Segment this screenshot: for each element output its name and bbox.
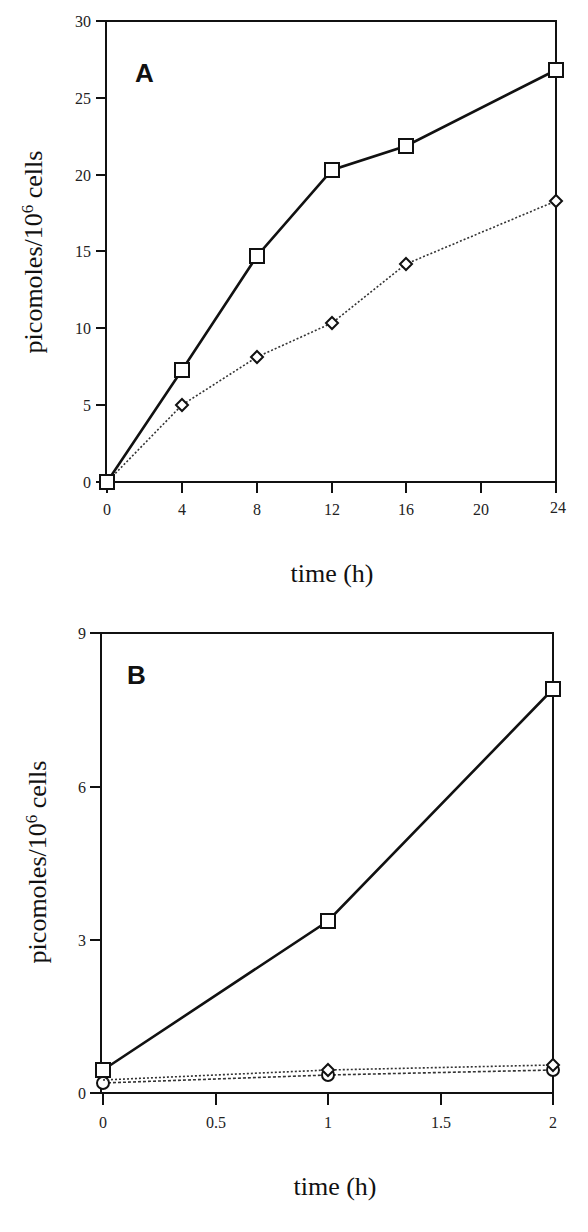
y-axis-title-superscript: 6 bbox=[18, 205, 37, 214]
x-tick-label: 0 bbox=[103, 501, 111, 518]
panel-b-y-axis-title: picomoles/106 cells bbox=[22, 761, 52, 964]
square-marker bbox=[399, 139, 413, 153]
x-tick-label: 4 bbox=[178, 501, 186, 518]
square-marker bbox=[175, 363, 189, 377]
panel-a-plot-frame bbox=[106, 21, 556, 482]
x-tick-label: 16 bbox=[398, 501, 414, 518]
y-tick-label: 0 bbox=[83, 474, 91, 491]
x-tick-label: 8 bbox=[253, 501, 261, 518]
panel-b-square-markers bbox=[96, 682, 560, 1077]
x-tick-label: 12 bbox=[324, 501, 340, 518]
circle-marker bbox=[97, 1077, 109, 1089]
panel-b-square-series-line bbox=[103, 689, 553, 1070]
panel-a-letter: A bbox=[135, 58, 154, 88]
y-tick-label: 3 bbox=[78, 932, 86, 949]
panel-b: 0 3 6 9 0 0.5 1 1.5 2 time (h) picomoles… bbox=[22, 625, 560, 1201]
square-marker bbox=[96, 1063, 110, 1077]
square-marker bbox=[325, 163, 339, 177]
x-tick-label: 20 bbox=[473, 501, 489, 518]
panel-b-x-axis bbox=[103, 1093, 553, 1105]
y-axis-title-tail: cells bbox=[19, 151, 48, 205]
panel-a-x-tick-labels: 0 4 8 12 16 20 24 bbox=[103, 499, 566, 518]
y-tick-label: 20 bbox=[75, 167, 91, 184]
panel-b-y-tick-labels: 0 3 6 9 bbox=[78, 625, 86, 1102]
x-tick-label: 1.5 bbox=[431, 1114, 451, 1131]
x-tick-label: 0 bbox=[99, 1114, 107, 1131]
diamond-marker bbox=[550, 195, 562, 207]
y-tick-label: 0 bbox=[78, 1085, 86, 1102]
y-tick-label: 9 bbox=[78, 625, 86, 642]
panel-b-x-tick-labels: 0 0.5 1 1.5 2 bbox=[99, 1114, 557, 1131]
panel-a: 0 5 10 15 20 25 30 0 4 8 12 16 20 24 bbox=[18, 13, 566, 588]
panel-a-y-axis bbox=[96, 21, 106, 482]
square-marker bbox=[250, 249, 264, 263]
y-tick-label: 25 bbox=[75, 90, 91, 107]
y-tick-label: 5 bbox=[83, 397, 91, 414]
square-marker bbox=[549, 63, 563, 77]
diamond-marker bbox=[400, 258, 412, 270]
y-axis-title-main: picomoles/10 bbox=[23, 823, 52, 963]
panel-b-x-axis-title: time (h) bbox=[293, 1172, 376, 1201]
panel-a-square-series-line bbox=[107, 70, 556, 482]
y-axis-title-tail: cells bbox=[23, 761, 52, 815]
panel-b-letter: B bbox=[127, 660, 146, 690]
x-tick-label: 2 bbox=[549, 1114, 557, 1131]
square-marker bbox=[321, 914, 335, 928]
y-axis-title-superscript: 6 bbox=[22, 815, 41, 824]
x-tick-label: 0.5 bbox=[206, 1114, 226, 1131]
x-tick-label: 24 bbox=[550, 499, 566, 516]
square-marker bbox=[100, 475, 114, 489]
panel-a-y-axis-title: picomoles/106 cells bbox=[18, 151, 48, 354]
square-marker bbox=[546, 682, 560, 696]
y-tick-label: 30 bbox=[75, 13, 91, 30]
panel-a-y-tick-labels: 0 5 10 15 20 25 30 bbox=[75, 13, 91, 491]
y-tick-label: 10 bbox=[75, 320, 91, 337]
figure: 0 5 10 15 20 25 30 0 4 8 12 16 20 24 bbox=[0, 0, 588, 1232]
x-tick-label: 1 bbox=[324, 1114, 332, 1131]
panel-b-y-axis bbox=[90, 633, 101, 1093]
panel-a-diamond-series-line bbox=[107, 201, 556, 482]
y-tick-label: 6 bbox=[78, 779, 86, 796]
panel-a-x-axis bbox=[107, 482, 556, 493]
y-tick-label: 15 bbox=[75, 243, 91, 260]
diamond-marker bbox=[251, 351, 263, 363]
panel-a-x-axis-title: time (h) bbox=[290, 559, 373, 588]
y-axis-title-main: picomoles/10 bbox=[19, 213, 48, 353]
panel-b-plot-frame bbox=[101, 633, 553, 1093]
panel-a-square-markers bbox=[100, 63, 563, 489]
panel-a-diamond-markers bbox=[176, 195, 562, 411]
